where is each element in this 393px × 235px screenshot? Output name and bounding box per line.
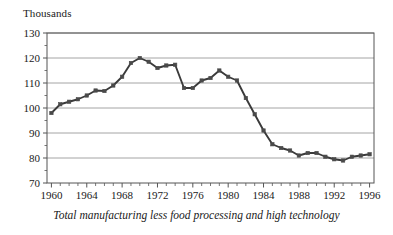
x-axis-label-1976: 1976	[182, 189, 205, 201]
x-axis-tick-labels: 1960196419681972197619801984198819921996	[40, 189, 381, 201]
data-point-1964	[85, 94, 88, 97]
data-point-1996	[368, 153, 371, 156]
data-point-1972	[156, 66, 159, 69]
data-point-1976	[191, 86, 194, 89]
data-point-1966	[103, 89, 106, 92]
y-axis-label-90: 90	[29, 127, 41, 139]
figure-caption: Total manufacturing less food processing…	[0, 208, 393, 222]
data-point-1994	[350, 155, 353, 158]
data-point-1961	[59, 103, 62, 106]
data-point-1988	[297, 154, 300, 157]
y-axis-label-130: 130	[24, 27, 41, 39]
data-point-1973	[165, 64, 168, 67]
y-axis-label-80: 80	[29, 152, 41, 164]
data-point-1987	[288, 149, 291, 152]
data-point-1978	[209, 76, 212, 79]
data-point-1985	[271, 143, 274, 146]
data-point-1971	[147, 60, 150, 63]
data-point-1977	[200, 79, 203, 82]
data-point-1984	[262, 129, 265, 132]
line-chart-svg: 708090100110120130 196019641968197219761…	[0, 0, 393, 235]
data-point-1960	[50, 111, 53, 114]
data-point-1986	[280, 146, 283, 149]
x-axis-label-1988: 1988	[288, 189, 311, 201]
x-axis-label-1996: 1996	[359, 189, 382, 201]
data-point-1981	[235, 79, 238, 82]
data-point-1963	[76, 98, 79, 101]
data-point-1980	[226, 75, 229, 78]
series-path	[51, 58, 369, 161]
x-axis-label-1984: 1984	[253, 189, 276, 201]
data-point-1968	[120, 75, 123, 78]
data-point-1990	[315, 151, 318, 154]
data-point-1992	[333, 158, 336, 161]
x-axis-label-1964: 1964	[76, 189, 99, 201]
y-axis-label-70: 70	[29, 177, 41, 189]
data-point-1970	[138, 56, 141, 59]
data-point-1982	[244, 96, 247, 99]
data-series-markers	[50, 56, 372, 162]
y-axis-minor-ticks	[43, 33, 47, 183]
x-axis-label-1992: 1992	[323, 189, 345, 201]
x-axis-label-1980: 1980	[217, 189, 240, 201]
data-point-1974	[173, 63, 176, 66]
data-point-1969	[129, 61, 132, 64]
data-series-line	[51, 58, 369, 161]
data-point-1962	[67, 100, 70, 103]
x-axis-label-1968: 1968	[111, 189, 134, 201]
data-point-1993	[341, 159, 344, 162]
plot-area: 708090100110120130 196019641968197219761…	[0, 0, 393, 235]
data-point-1979	[218, 69, 221, 72]
x-axis-label-1972: 1972	[146, 189, 168, 201]
chart-figure: Thousands 708090100110120130 19601964196…	[0, 0, 393, 235]
y-axis-tick-labels: 708090100110120130	[24, 27, 41, 189]
data-point-1975	[182, 86, 185, 89]
y-axis-label-120: 120	[24, 52, 41, 64]
y-axis-label-100: 100	[24, 102, 41, 114]
data-point-1983	[253, 113, 256, 116]
data-point-1967	[112, 84, 115, 87]
data-point-1991	[324, 155, 327, 158]
x-axis-minor-ticks	[51, 183, 369, 188]
x-axis-label-1960: 1960	[40, 189, 63, 201]
data-point-1989	[306, 151, 309, 154]
gridlines	[47, 33, 374, 158]
data-point-1965	[94, 89, 97, 92]
y-axis-label-110: 110	[24, 77, 41, 89]
data-point-1995	[359, 154, 362, 157]
